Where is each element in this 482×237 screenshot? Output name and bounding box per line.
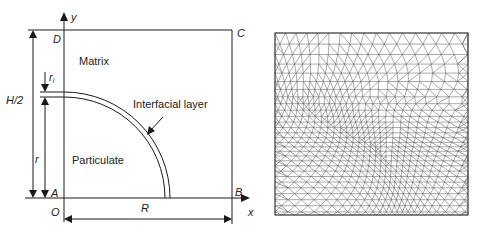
triangular-mesh [275,33,468,215]
fe-mesh-diagram [0,0,482,237]
